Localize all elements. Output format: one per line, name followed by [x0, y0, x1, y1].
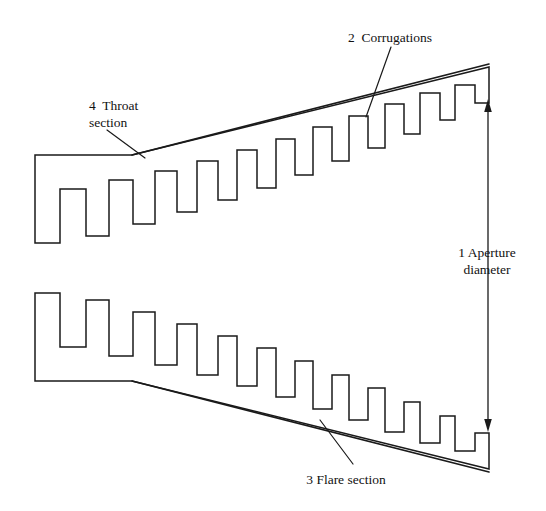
lower-horn-half — [35, 293, 489, 472]
flare-leader-line — [320, 420, 353, 464]
throat-leader-line — [107, 130, 145, 158]
aperture-label-line2: diameter — [463, 262, 511, 277]
aperture-arrowhead-up-icon — [484, 99, 492, 112]
corrugations-label: 2 Corrugations — [348, 30, 432, 45]
throat-label-line2: section — [89, 115, 127, 130]
upper-horn-corrugated-outline — [35, 67, 489, 243]
lower-horn-corrugated-outline — [35, 293, 489, 469]
horn-antenna-diagram: 2 Corrugations 4 Throat section 1 Apertu… — [0, 0, 546, 511]
aperture-arrowhead-down-icon — [484, 419, 492, 432]
throat-label-line1: 4 Throat — [89, 98, 138, 113]
lower-flare-guide-line — [132, 381, 489, 472]
corrugations-leader-line — [366, 47, 391, 117]
flare-label: 3 Flare section — [306, 472, 386, 487]
aperture-label-line1: 1 Aperture — [458, 245, 515, 260]
upper-horn-half — [35, 64, 489, 243]
diagram-canvas: 2 Corrugations 4 Throat section 1 Apertu… — [0, 0, 546, 511]
upper-flare-guide-line — [132, 64, 489, 155]
